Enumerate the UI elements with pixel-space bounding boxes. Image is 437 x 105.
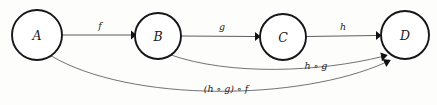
edge-label-h: h xyxy=(340,21,346,32)
commutative-diagram-canvas: A B C D f g h h ∘ g (h ∘ g) ∘ f xyxy=(0,0,437,105)
diagram-svg: A B C D f g h h ∘ g (h ∘ g) ∘ f xyxy=(0,0,437,105)
node-A[interactable]: A xyxy=(12,10,62,60)
node-B-label: B xyxy=(152,29,162,44)
edge-f[interactable] xyxy=(62,31,137,40)
edge-label-f: f xyxy=(97,20,103,31)
edge-label-h-compose-g: h ∘ g xyxy=(305,60,328,71)
edge-g[interactable] xyxy=(181,32,261,41)
node-C-label: C xyxy=(278,30,288,45)
node-A-label: A xyxy=(31,28,41,43)
edge-h-line xyxy=(306,36,376,37)
edge-g-line xyxy=(181,36,255,37)
edge-h[interactable] xyxy=(306,31,382,40)
node-D[interactable]: D xyxy=(381,11,429,59)
edge-label-hg-compose-f: (h ∘ g) ∘ f xyxy=(204,83,250,94)
node-B[interactable]: B xyxy=(135,13,181,59)
edge-label-g: g xyxy=(219,21,225,32)
node-D-label: D xyxy=(399,28,410,43)
node-C[interactable]: C xyxy=(260,14,306,60)
